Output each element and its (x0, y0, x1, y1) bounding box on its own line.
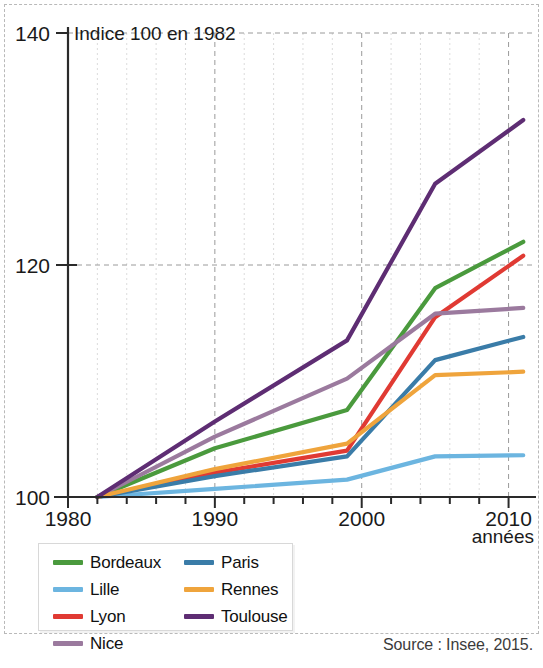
x-tick-label-2000: 2000 (338, 507, 385, 530)
x-axis-title: années (472, 526, 534, 545)
legend-swatch-lyon (53, 614, 83, 619)
legend-item-rennes[interactable]: Rennes (184, 576, 304, 603)
legend-swatch-paris (184, 560, 214, 565)
legend-label-bordeaux: Bordeaux (90, 553, 161, 573)
source-note: Source : Insee, 2015. (383, 636, 533, 654)
legend-item-bordeaux[interactable]: Bordeaux (53, 549, 184, 576)
y-tick-label-100: 100 (15, 486, 50, 509)
series-line-toulouse (97, 120, 523, 497)
legend-label-rennes: Rennes (221, 580, 278, 600)
x-tick-label-1990: 1990 (191, 507, 238, 530)
series-line-rennes (97, 372, 523, 497)
y-tick-label-140: 140 (15, 22, 50, 45)
legend-swatch-bordeaux (53, 560, 83, 565)
horizontal-gridlines (68, 33, 535, 265)
legend-swatch-lille (53, 587, 83, 592)
chart-plot-svg: 1001201401980199020002010 Indice 100 en … (0, 0, 543, 545)
legend-label-lyon: Lyon (90, 607, 125, 627)
figure-page: 1001201401980199020002010 Indice 100 en … (0, 0, 543, 668)
x-tick-label-1980: 1980 (45, 507, 92, 530)
y-tick-label-120: 120 (15, 254, 50, 277)
legend-item-empty (184, 630, 304, 657)
legend-item-lille[interactable]: Lille (53, 576, 184, 603)
legend-swatch-nice (53, 641, 83, 646)
legend-label-paris: Paris (221, 553, 259, 573)
legend-item-paris[interactable]: Paris (184, 549, 304, 576)
legend-item-lyon[interactable]: Lyon (53, 603, 184, 630)
legend-grid: BordeauxParisLilleRennesLyonToulouseNice (39, 544, 292, 630)
legend-swatch-toulouse (184, 614, 214, 619)
legend-label-lille: Lille (90, 580, 119, 600)
line-chart: 1001201401980199020002010 Indice 100 en … (0, 0, 543, 545)
plot-note: Indice 100 en 1982 (74, 23, 236, 44)
data-series-group (97, 120, 523, 497)
legend-item-nice[interactable]: Nice (53, 630, 184, 657)
legend-swatch-rennes (184, 587, 214, 592)
legend-item-toulouse[interactable]: Toulouse (184, 603, 304, 630)
legend-label-toulouse: Toulouse (221, 607, 287, 627)
legend-label-nice: Nice (90, 634, 123, 654)
chart-legend: BordeauxParisLilleRennesLyonToulouseNice (38, 543, 293, 631)
